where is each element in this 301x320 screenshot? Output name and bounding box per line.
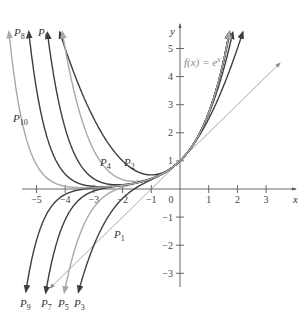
taylor-polynomials-chart: −5−4−3−2−10123 −3−2−112345 x y P8P6P10P4…: [0, 0, 301, 320]
curve-p1: [50, 63, 280, 288]
x-tick-label: 0: [169, 194, 174, 205]
label-p5: P5: [57, 297, 69, 312]
curves: [9, 32, 280, 293]
label-p9: P9: [19, 297, 31, 312]
y-tick-label: 1: [168, 155, 173, 166]
y-axis-label: y: [169, 25, 175, 37]
x-axis-label: x: [292, 193, 298, 205]
x-axis-ticks: −5−4−3−2−10123: [31, 185, 268, 205]
curve-p2: [60, 32, 243, 175]
y-tick-label: 3: [168, 99, 173, 110]
y-tick-label: −1: [162, 212, 173, 223]
x-tick-label: −1: [146, 194, 157, 205]
label-p2: P2: [123, 156, 135, 171]
x-tick-label: −5: [31, 194, 42, 205]
curve-p5: [64, 32, 229, 293]
function-label: f(x) = ex: [184, 55, 221, 69]
x-tick-label: 1: [206, 194, 211, 205]
x-tick-label: 2: [235, 194, 240, 205]
y-tick-label: 5: [168, 43, 173, 54]
label-p6: P6: [37, 26, 49, 41]
x-tick-label: −4: [60, 194, 71, 205]
label-p7: P7: [40, 297, 52, 312]
label-p8: P8: [13, 26, 25, 41]
y-tick-label: −2: [162, 240, 173, 251]
label-p3: P3: [73, 297, 85, 312]
x-tick-label: 3: [264, 194, 269, 205]
label-p4: P4: [99, 156, 111, 171]
y-tick-label: 4: [168, 71, 173, 82]
label-p1: P1: [113, 228, 125, 243]
y-tick-label: 2: [168, 127, 173, 138]
y-tick-label: −3: [162, 268, 173, 279]
axes: −5−4−3−2−10123 −3−2−112345 x y: [22, 24, 298, 287]
